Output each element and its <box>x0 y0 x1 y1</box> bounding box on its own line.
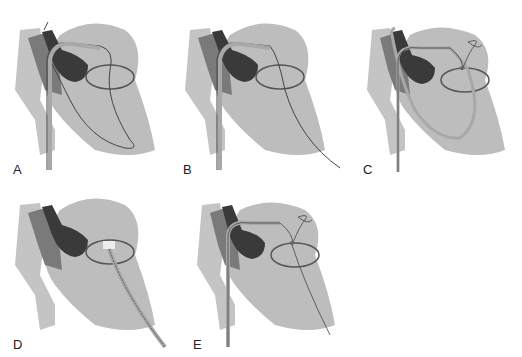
panel-c: C <box>340 0 520 180</box>
heart-diagram-a <box>0 0 180 180</box>
heart-diagram-d <box>0 175 180 357</box>
panel-label-e: E <box>193 337 202 352</box>
panel-d: D <box>0 175 180 355</box>
panel-a: A <box>0 0 180 180</box>
heart-diagram-b <box>170 0 350 180</box>
panel-b: B <box>170 0 350 180</box>
panel-e: E <box>170 175 350 355</box>
panel-label-d: D <box>13 337 22 352</box>
heart-diagram-e <box>170 175 350 357</box>
heart-diagram-c <box>340 0 522 180</box>
panel-label-c: C <box>363 162 372 177</box>
